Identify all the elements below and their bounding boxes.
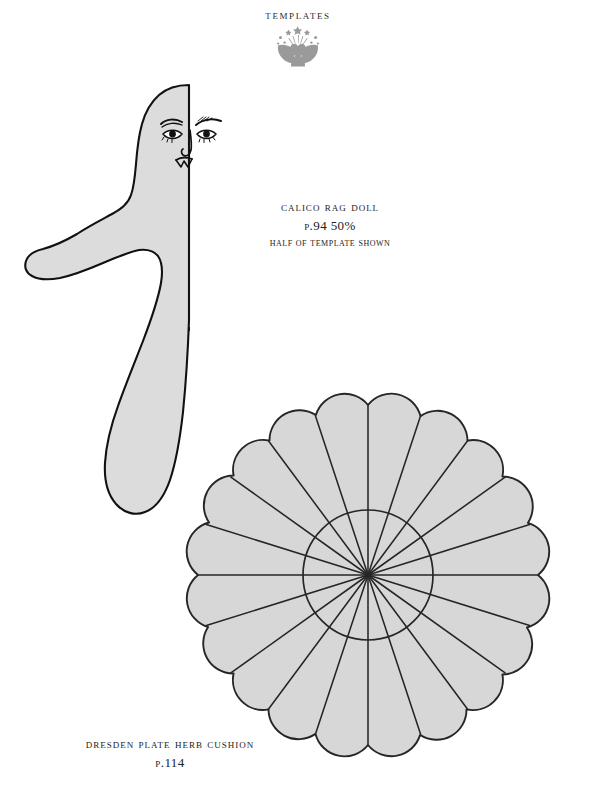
caption-calico-rag-doll: Calico Rag Doll p.94 50% Half of Templat…: [198, 198, 462, 250]
doll-face: [161, 117, 221, 167]
template-page: Templates: [0, 0, 596, 803]
calico-rag-doll-template: [0, 0, 596, 803]
caption-cushion-page: p.114: [20, 754, 320, 772]
left-eye: [162, 130, 182, 142]
caption-doll-note: Half of Template shown: [198, 235, 462, 250]
doll-body-outline: [26, 85, 189, 414]
nose: [182, 130, 192, 156]
floral-leaf-ornament: [0, 25, 596, 67]
page-header: Templates: [0, 8, 596, 67]
caption-dresden-plate: Dresden Plate Herb Cushion p.114: [20, 735, 320, 772]
doll-silhouette: [25, 85, 189, 514]
scalloped-outline: [187, 394, 550, 757]
right-eye: [197, 130, 216, 142]
mouth: [176, 158, 192, 167]
caption-doll-page: p.94 50%: [198, 217, 462, 235]
dresden-plate-shape: [187, 394, 550, 757]
radial-seam-lines: [198, 405, 538, 745]
left-eyebrow: [161, 120, 182, 127]
page-title: Templates: [0, 8, 596, 23]
caption-doll-title: Calico Rag Doll: [198, 198, 462, 217]
caption-cushion-title: Dresden Plate Herb Cushion: [20, 735, 320, 754]
dresden-plate-herb-cushion-template: [0, 0, 596, 803]
inner-circle: [303, 510, 433, 640]
right-eyebrow: [196, 117, 221, 125]
